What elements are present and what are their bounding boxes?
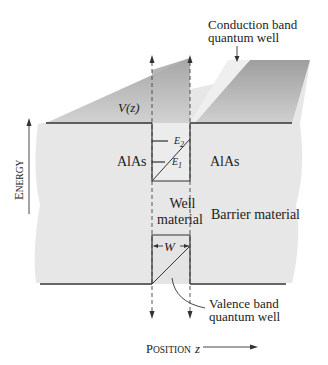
left-material-label: AlAs (117, 155, 147, 169)
e2-label: E2 (174, 136, 184, 149)
conduction-note-line2: quantum well (208, 31, 297, 44)
width-label: W (164, 240, 175, 253)
valence-note-line2: quantum well (209, 310, 280, 323)
position-axis-label: POSITION z (146, 340, 200, 356)
well-material-line2: material (157, 212, 203, 228)
potential-label: V(z) (118, 101, 140, 114)
valence-band-note: Valence band quantum well (209, 297, 280, 323)
conduction-band-note: Conduction band quantum well (208, 18, 297, 44)
right-material-label: AlAs (210, 155, 240, 169)
well-material-line1: Well (157, 196, 203, 212)
e1-label: E1 (172, 157, 182, 170)
barrier-material-label: Barrier material (211, 208, 300, 222)
energy-axis-label: ENERGY (9, 160, 27, 200)
well-material-label: Well material (157, 196, 203, 228)
